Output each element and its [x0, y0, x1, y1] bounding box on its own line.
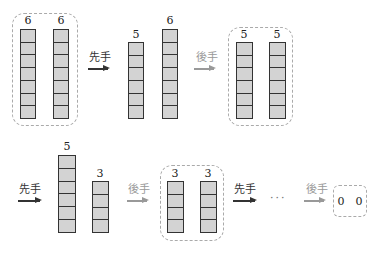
pile-5-a — [236, 42, 253, 119]
pile-count: 6 — [18, 14, 38, 27]
pile-count: 3 — [165, 167, 185, 180]
first-player-label: 先手 — [19, 180, 41, 196]
pile-3-a — [167, 181, 184, 233]
second-move-arrow — [194, 68, 214, 70]
pile-5-b — [269, 42, 286, 119]
second-move-arrow — [127, 200, 147, 202]
first-player-label: 先手 — [89, 48, 111, 64]
second-move-arrow — [304, 200, 324, 202]
pile-count: 5 — [126, 28, 146, 41]
second-player-label: 後手 — [306, 180, 328, 196]
pile-count: 6 — [160, 14, 180, 27]
first-player-label: 先手 — [234, 180, 256, 196]
first-move-arrow — [18, 200, 40, 202]
first-move-arrow — [233, 200, 255, 202]
pile-6-a — [20, 29, 36, 119]
pile-3-b — [92, 181, 109, 233]
pile-count: 0 — [349, 195, 369, 208]
ellipsis: ··· — [270, 192, 287, 205]
pile-count: 3 — [90, 167, 110, 180]
pile-count: 3 — [198, 167, 218, 180]
pile-count: 0 — [331, 195, 351, 208]
pile-count: 5 — [234, 28, 254, 41]
pile-5-a — [58, 155, 76, 233]
pile-5-a — [128, 42, 144, 119]
pile-6-b — [162, 29, 178, 119]
second-player-label: 後手 — [128, 180, 150, 196]
pile-count: 5 — [267, 28, 287, 41]
second-player-label: 後手 — [196, 48, 218, 64]
first-move-arrow — [88, 68, 108, 70]
pile-3-b — [200, 181, 217, 233]
pile-count: 5 — [57, 140, 77, 153]
pile-count: 6 — [51, 14, 71, 27]
pile-6-b — [53, 29, 69, 119]
